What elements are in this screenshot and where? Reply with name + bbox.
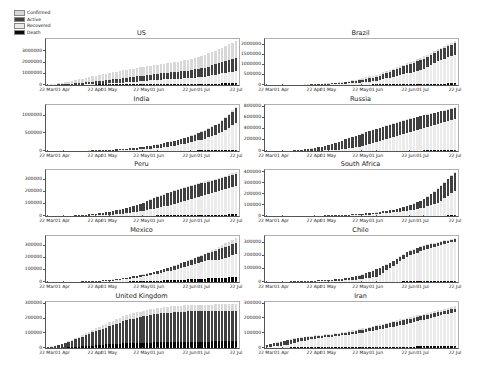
bar-recovered bbox=[389, 268, 391, 282]
bar-active bbox=[156, 145, 158, 148]
bar-active bbox=[440, 312, 442, 316]
bar-death bbox=[276, 151, 278, 152]
bar-recovered bbox=[214, 192, 216, 216]
bar-death bbox=[85, 216, 87, 217]
bar-death bbox=[211, 278, 213, 282]
bar-active bbox=[450, 176, 452, 193]
bar-active bbox=[368, 213, 370, 214]
bar-active bbox=[437, 312, 439, 316]
bar-active bbox=[149, 146, 151, 149]
y-tick-mark bbox=[43, 318, 45, 319]
bar-death bbox=[88, 282, 90, 283]
bar-recovered bbox=[207, 137, 209, 151]
x-tick-mark bbox=[190, 215, 191, 217]
bar-death bbox=[443, 216, 445, 217]
bar-active bbox=[187, 261, 189, 266]
bar-active bbox=[437, 112, 439, 124]
bar-death bbox=[231, 83, 233, 85]
bar-death bbox=[71, 216, 73, 217]
bar-death bbox=[413, 151, 415, 152]
bar-death bbox=[416, 84, 418, 85]
bar-death bbox=[351, 216, 353, 217]
bar-recovered bbox=[437, 246, 439, 282]
bar-death bbox=[177, 84, 179, 85]
bar-death bbox=[146, 84, 148, 85]
bar-death bbox=[348, 85, 350, 86]
bar-death bbox=[180, 84, 182, 85]
bar-recovered bbox=[385, 328, 387, 348]
bar-death bbox=[399, 84, 401, 85]
x-tick-label: 22 Jul bbox=[443, 350, 467, 355]
bar-active bbox=[396, 209, 398, 212]
bar-death bbox=[190, 151, 192, 152]
x-tick-mark bbox=[282, 281, 283, 283]
bar-death bbox=[372, 84, 374, 85]
bar-active bbox=[419, 116, 421, 129]
bar-death bbox=[81, 346, 83, 348]
x-tick-label: 01 Jul bbox=[192, 153, 216, 158]
bar-death bbox=[119, 216, 121, 217]
bar-active bbox=[409, 119, 411, 132]
bar-active bbox=[139, 204, 141, 211]
bar-death bbox=[153, 151, 155, 152]
bar-death bbox=[331, 282, 333, 283]
bar-death bbox=[273, 282, 275, 283]
bar-active bbox=[183, 71, 185, 78]
bar-recovered bbox=[207, 194, 209, 216]
bar-death bbox=[351, 151, 353, 152]
bar-death bbox=[214, 150, 216, 151]
bar-death bbox=[78, 347, 80, 348]
x-tick-mark bbox=[361, 84, 362, 86]
x-tick-mark bbox=[423, 281, 424, 283]
bar-death bbox=[300, 151, 302, 152]
bar-death bbox=[293, 282, 295, 283]
y-tick-mark bbox=[262, 139, 264, 140]
bar-death bbox=[91, 346, 93, 348]
bar-death bbox=[399, 151, 401, 152]
bar-death bbox=[382, 282, 384, 283]
bar-death bbox=[183, 151, 185, 152]
bar-active bbox=[426, 115, 428, 127]
bar-active bbox=[437, 51, 439, 62]
bar-active bbox=[348, 278, 350, 281]
bar-active bbox=[344, 278, 346, 280]
x-tick-label: 01 Jun bbox=[364, 153, 388, 158]
subplot-united-kingdom: United Kingdom010000020000030000022 Mar0… bbox=[45, 301, 238, 347]
bar-death bbox=[149, 343, 151, 349]
bar-recovered bbox=[399, 325, 401, 348]
legend-item-recovered: Recovered bbox=[14, 23, 51, 29]
bar-active bbox=[228, 246, 230, 257]
x-tick-label: 01 May bbox=[316, 284, 340, 289]
bar-active bbox=[122, 78, 124, 82]
bar-active bbox=[402, 66, 404, 74]
x-tick-mark bbox=[204, 281, 205, 283]
bar-death bbox=[64, 348, 66, 349]
bar-recovered bbox=[437, 124, 439, 151]
bar-death bbox=[447, 83, 449, 85]
bar-death bbox=[64, 282, 66, 283]
bar-death bbox=[379, 216, 381, 217]
x-tick-label: 01 Jun bbox=[145, 87, 169, 92]
bar-recovered bbox=[437, 61, 439, 85]
x-tick-label: 22 Jul bbox=[443, 153, 467, 158]
bar-recovered bbox=[413, 322, 415, 348]
bar-active bbox=[423, 115, 425, 128]
bar-active bbox=[409, 64, 411, 73]
x-tick-mark bbox=[282, 347, 283, 349]
bar-active bbox=[355, 136, 357, 147]
bar-death bbox=[348, 347, 350, 348]
bar-recovered bbox=[416, 253, 418, 282]
bar-recovered bbox=[221, 132, 223, 151]
bar-death bbox=[348, 151, 350, 152]
bar-recovered bbox=[443, 59, 445, 85]
bar-death bbox=[324, 282, 326, 283]
bar-death bbox=[190, 342, 192, 348]
bar-death bbox=[74, 347, 76, 348]
bar-active bbox=[187, 187, 189, 201]
bar-recovered bbox=[430, 248, 432, 282]
x-tick-mark bbox=[314, 281, 315, 283]
bar-active bbox=[382, 266, 384, 272]
bar-death bbox=[132, 151, 134, 152]
bar-death bbox=[74, 85, 76, 86]
bar-death bbox=[368, 216, 370, 217]
